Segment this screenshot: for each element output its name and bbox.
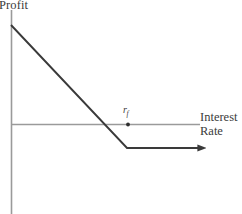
figure-canvas xyxy=(0,0,242,214)
risk-free-rate-label: rf xyxy=(123,105,129,117)
x-axis-label-rate: Rate xyxy=(200,125,223,138)
risk-free-rate-marker xyxy=(126,123,130,127)
x-axis-label-interest: Interest xyxy=(200,111,237,124)
risk-free-rate-subscript: f xyxy=(126,109,128,118)
y-axis-label-profit: Profit xyxy=(0,0,28,12)
profit-vs-interest-rate-figure: Profit Interest Rate rf xyxy=(0,0,242,214)
profit-curve xyxy=(11,25,198,148)
